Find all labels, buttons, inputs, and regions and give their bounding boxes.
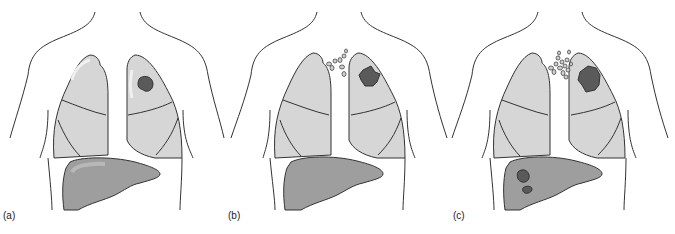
liver-metastasis bbox=[517, 170, 529, 182]
liver bbox=[284, 157, 383, 210]
torso-diagram bbox=[450, 0, 675, 234]
lung-left bbox=[127, 55, 182, 158]
lymph-nodes bbox=[327, 49, 348, 77]
lung-left bbox=[349, 53, 405, 158]
liver bbox=[504, 157, 602, 210]
torso-diagram bbox=[0, 0, 225, 234]
panel-b: (b) bbox=[225, 0, 450, 234]
torso-diagram bbox=[225, 0, 450, 234]
panel-a: (a) bbox=[0, 0, 225, 234]
liver-metastasis bbox=[523, 186, 532, 193]
lung-right bbox=[275, 53, 331, 158]
panel-label: (c) bbox=[453, 210, 465, 221]
panel-label: (a) bbox=[3, 210, 15, 221]
panel-c: (c) bbox=[450, 0, 675, 234]
lung-right bbox=[54, 55, 108, 158]
liver bbox=[63, 158, 160, 210]
lung-right bbox=[494, 53, 550, 158]
panel-label: (b) bbox=[228, 210, 240, 221]
